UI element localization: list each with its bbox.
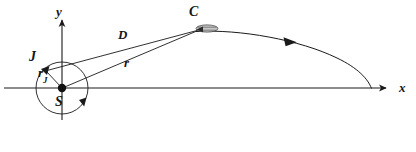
- orbit-direction-arrow-icon: [79, 98, 87, 107]
- segment-r-line: [64, 31, 199, 88]
- segment-rj-label-subscript: J: [43, 75, 48, 85]
- trajectory-path: [196, 31, 372, 88]
- segment-d-label: D: [118, 28, 127, 41]
- segment-r-label: r: [124, 56, 129, 69]
- x-axis-label: x: [399, 81, 406, 94]
- orbital-geometry-figure: y x S J C rJ D r: [0, 0, 416, 152]
- sun-point-marker: [58, 84, 66, 92]
- spacecraft-point-label: C: [189, 5, 198, 19]
- figure-canvas: [0, 0, 416, 152]
- sun-point-label: S: [55, 95, 63, 109]
- spacecraft-body-icon: [196, 25, 218, 32]
- jupiter-point-label: J: [29, 50, 36, 64]
- y-axis-label: y: [56, 5, 62, 18]
- segment-rj-label: rJ: [38, 66, 48, 83]
- trajectory-direction-arrow-icon: [284, 37, 297, 46]
